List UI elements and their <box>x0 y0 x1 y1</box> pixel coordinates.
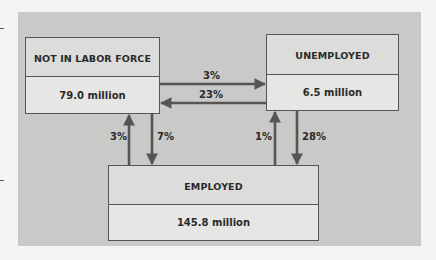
flow-label-nlf-to-unemployed: 3% <box>203 70 220 81</box>
flow-label-employed-to-nlf: 3% <box>110 131 127 142</box>
flow-label-nlf-to-employed: 7% <box>157 131 174 142</box>
flow-arrows <box>0 0 436 260</box>
flow-label-unemployed-to-employed: 28% <box>302 131 326 142</box>
flow-label-unemployed-to-nlf: 23% <box>199 89 223 100</box>
flow-label-employed-to-unemployed: 1% <box>255 131 272 142</box>
